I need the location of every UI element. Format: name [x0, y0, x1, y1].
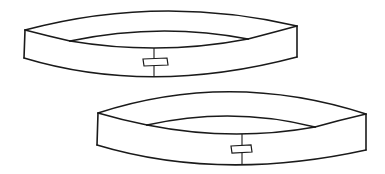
headband-upper: [24, 11, 297, 77]
tape-strip: [143, 58, 168, 66]
illustration: Line drawing of two paper headbands, eac…: [0, 0, 385, 174]
headband-lower: [97, 92, 366, 165]
headbands-drawing: [0, 0, 385, 174]
tape-strip: [231, 145, 252, 153]
